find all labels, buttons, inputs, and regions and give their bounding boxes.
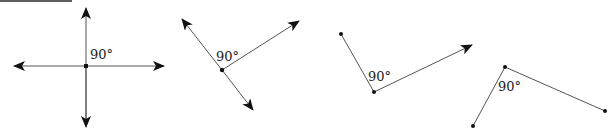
endpoint: [339, 32, 343, 36]
vertex-point: [84, 64, 88, 68]
vertex-point: [503, 65, 507, 69]
segment-left: [473, 67, 505, 126]
figure-two-segments-angle: 90°: [471, 65, 607, 128]
endpoint-right: [603, 109, 607, 113]
vertex-point: [372, 90, 376, 94]
figure-perpendicular-lines: 90°: [14, 8, 164, 127]
angle-label: 90°: [216, 49, 239, 64]
angle-label: 90°: [90, 47, 113, 62]
vertex-point: [220, 68, 224, 72]
endpoint-left: [471, 124, 475, 128]
figure-segment-ray-angle: 90°: [339, 32, 472, 94]
right-angle-diagram: 90° 90° 90° 90°: [0, 0, 613, 136]
figure-rotated-angle: 90°: [182, 19, 299, 110]
ray-lower-right: [222, 70, 253, 110]
angle-label: 90°: [368, 69, 391, 84]
angle-label: 90°: [498, 79, 521, 94]
